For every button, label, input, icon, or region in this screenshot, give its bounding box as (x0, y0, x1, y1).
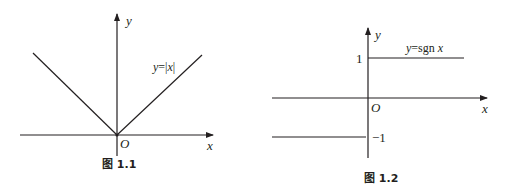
figure-caption: 图 1.2 (364, 172, 398, 185)
x-axis-label: x (206, 138, 213, 153)
figure-caption: 图 1.1 (102, 158, 136, 171)
function-label-x: x (437, 41, 444, 55)
y-axis-label: y (124, 13, 132, 28)
origin-label: O (120, 136, 130, 151)
function-label-sgn: =sgn (411, 41, 437, 55)
x-axis-label: x (481, 101, 488, 116)
function-label: y=sgn x (405, 41, 444, 55)
figure-abs-value: y x O y=|x| 图 1.1 (20, 13, 213, 171)
tick-label-minus-1: −1 (372, 130, 386, 145)
tick-label-1: 1 (356, 51, 363, 66)
figures-canvas: y x O y=|x| 图 1.1 y x O 1 −1 y=sgn x 图 1… (0, 0, 506, 191)
function-label-bar: | (173, 60, 175, 74)
origin-label: O (371, 100, 381, 115)
function-label: y=|x| (152, 60, 175, 74)
origin-point (115, 133, 118, 136)
abs-left-branch (33, 53, 117, 135)
y-axis-label: y (373, 27, 381, 42)
function-label-eq: =| (158, 60, 167, 74)
figure-sign-function: y x O 1 −1 y=sgn x 图 1.2 (272, 27, 488, 185)
